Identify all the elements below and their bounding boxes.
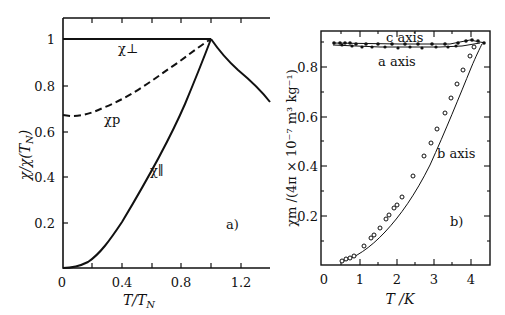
- x-tick-1.2: 1.2: [231, 275, 252, 290]
- x-tick-0.4: 0.4: [112, 275, 133, 290]
- panel-b-y-axis-label: χm /(4π × 10⁻⁷ m³ kg⁻¹): [284, 69, 299, 227]
- x-tick-0.8: 0.8: [171, 275, 192, 290]
- panel-a: 1 0.8 0.6 0.4 0.2 0 0.4 0.8 1.2 T/TN χ/χ…: [17, 18, 270, 310]
- b-x-tick-2: 2: [393, 272, 401, 287]
- b-y-tick-0.6: 0.6: [297, 110, 318, 125]
- label-b-axis: b axis: [437, 146, 475, 161]
- label-chi-perp: χ⊥: [118, 41, 138, 56]
- y-tick-0.6: 0.6: [34, 125, 55, 140]
- panel-b-label: b): [450, 214, 463, 229]
- b-x-tick-0: 0: [320, 272, 328, 287]
- b-x-tick-3: 3: [430, 272, 438, 287]
- x-tick-0: 0: [58, 275, 66, 290]
- b-y-tick-0.4: 0.4: [297, 159, 318, 174]
- panel-a-y-axis-label: χ/χ(TN): [17, 130, 35, 182]
- curve-paramagnetic: [211, 39, 270, 102]
- label-chi-p: χp: [104, 112, 120, 127]
- label-chi-parallel: χ∥: [150, 163, 164, 178]
- y-tick-0.4: 0.4: [34, 170, 55, 185]
- curve-chi-parallel: [63, 39, 211, 268]
- b-y-tick-0.2: 0.2: [297, 209, 318, 224]
- y-tick-1: 1: [47, 32, 55, 47]
- figure: 1 0.8 0.6 0.4 0.2 0 0.4 0.8 1.2 T/TN χ/χ…: [0, 0, 505, 315]
- label-c-axis: c axis: [386, 30, 423, 45]
- panel-b-x-axis-label: T /K: [386, 291, 417, 307]
- y-tick-0.2: 0.2: [34, 216, 55, 231]
- b-y-tick-0.8: 0.8: [297, 60, 318, 75]
- b-x-tick-1: 1: [356, 272, 364, 287]
- panel-b: 0.8 0.6 0.4 0.2 0 1 2 3 4 T /K χm /(4π ×…: [284, 30, 490, 307]
- b-x-tick-4: 4: [467, 272, 475, 287]
- panel-a-x-axis-label: T/TN: [123, 292, 156, 310]
- label-a-axis: a axis: [378, 54, 416, 69]
- panel-a-label: a): [226, 217, 239, 232]
- y-tick-0.8: 0.8: [34, 79, 55, 94]
